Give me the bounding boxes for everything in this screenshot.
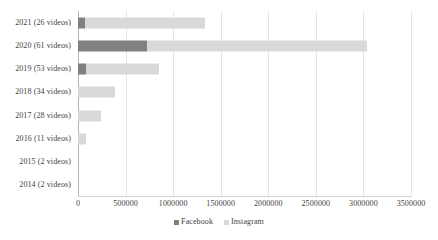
category-label: 2016 (11 videos) <box>15 135 71 143</box>
x-tick-label: 3000000 <box>349 200 378 208</box>
bar-segment-instagram <box>86 64 159 75</box>
x-tick-label: 500000 <box>113 200 138 208</box>
instagram-swatch <box>224 220 229 225</box>
bar-row <box>78 127 411 150</box>
legend-label: Facebook <box>181 218 213 226</box>
bar-segment-instagram <box>147 40 367 51</box>
bar-stack <box>78 17 205 28</box>
category-label: 2017 (28 videos) <box>15 112 71 120</box>
x-tick-label: 1500000 <box>206 200 235 208</box>
x-tick-label: 0 <box>76 200 80 208</box>
category-label: 2018 (34 videos) <box>15 88 71 96</box>
plot-area <box>78 11 411 197</box>
bar-stack <box>78 87 115 98</box>
stacked-bar-chart: 2021 (26 videos)2020 (61 videos)2019 (53… <box>0 0 438 240</box>
bar-segment-facebook <box>78 17 85 28</box>
x-tick-label: 2500000 <box>301 200 330 208</box>
bar-row <box>78 174 411 197</box>
x-axis-line <box>78 196 411 197</box>
bar-segment-facebook <box>78 40 147 51</box>
facebook-swatch <box>174 220 179 225</box>
bar-segment-instagram <box>85 17 205 28</box>
bar-row <box>78 151 411 174</box>
bar-rows <box>78 11 411 197</box>
category-axis-labels: 2021 (26 videos)2020 (61 videos)2019 (53… <box>0 11 75 197</box>
chart-legend: FacebookInstagram <box>0 218 438 226</box>
x-tick-label: 1000000 <box>159 200 188 208</box>
bar-segment-instagram <box>78 110 101 121</box>
legend-item-instagram[interactable]: Instagram <box>224 218 264 226</box>
bar-row <box>78 34 411 57</box>
bar-segment-instagram <box>78 87 115 98</box>
x-axis-tick-labels: 0500000100000015000002000000250000030000… <box>78 200 411 214</box>
bar-stack <box>78 64 159 75</box>
bar-row <box>78 104 411 127</box>
bar-stack <box>78 110 101 121</box>
bar-segment-facebook <box>78 64 86 75</box>
bar-row <box>78 11 411 34</box>
bar-row <box>78 81 411 104</box>
category-label: 2020 (61 videos) <box>15 42 71 50</box>
x-tick-label: 2000000 <box>254 200 283 208</box>
category-label: 2019 (53 videos) <box>15 65 71 73</box>
gridline <box>411 11 412 197</box>
bar-stack <box>78 40 367 51</box>
bar-stack <box>78 133 86 144</box>
legend-item-facebook[interactable]: Facebook <box>174 218 213 226</box>
bar-segment-instagram <box>78 133 86 144</box>
legend-label: Instagram <box>231 218 264 226</box>
category-label: 2015 (2 videos) <box>19 158 71 166</box>
category-label: 2021 (26 videos) <box>15 19 71 27</box>
category-label: 2014 (2 videos) <box>19 181 71 189</box>
bar-row <box>78 58 411 81</box>
x-tick-label: 3500000 <box>397 200 426 208</box>
